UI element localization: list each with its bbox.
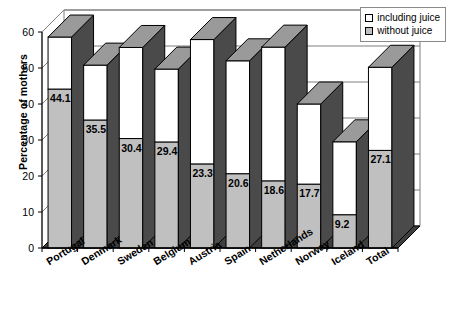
bar-value-label-sweden: 30.4 [121, 142, 141, 154]
legend-label-without-juice: without juice [377, 26, 432, 36]
bar-value-label-total: 27.1 [370, 153, 390, 165]
bar-value-label-austria: 23.3 [192, 167, 212, 179]
x-axis-label-belgium: Belgium [151, 235, 192, 267]
chart-container: Percentage of mothers 6050403020100 Port… [0, 0, 452, 310]
bar-value-label-netherlands: 18.6 [264, 184, 284, 196]
legend-item-without-juice: without juice [365, 25, 440, 37]
legend-label-including-juice: including juice [377, 13, 440, 23]
legend-swatch-without-juice [365, 27, 373, 35]
bar-value-label-spain: 20.6 [228, 177, 248, 189]
bar-value-label-portugal: 44.1 [50, 92, 70, 104]
x-axis-label-portugal: Portugal [44, 234, 86, 267]
legend-swatch-including-juice [365, 14, 373, 22]
legend: including juice without juice [360, 7, 446, 42]
bar-value-label-norway: 17.7 [299, 187, 319, 199]
bar-value-label-denmark: 35.5 [86, 123, 106, 135]
x-axis-label-spain: Spain [222, 242, 253, 267]
bar-value-label-iceland: 9.2 [335, 218, 350, 230]
legend-item-including-juice: including juice [365, 12, 440, 24]
bar-value-label-belgium: 29.4 [157, 145, 177, 157]
x-axis-label-iceland: Iceland [329, 238, 366, 267]
x-axis-label-austria: Austria [186, 238, 223, 267]
x-axis-label-total: Total [364, 244, 391, 267]
